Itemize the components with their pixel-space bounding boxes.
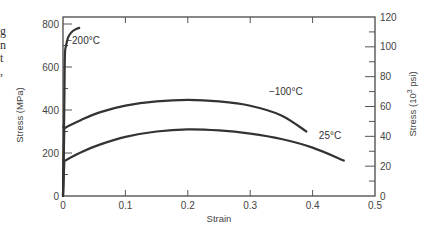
y2-axis-label: Stress (103 psi) bbox=[406, 71, 418, 136]
curve-25-c bbox=[63, 129, 344, 196]
y-tick-label: 200 bbox=[42, 148, 59, 159]
caption-fragments: g n t , bbox=[0, 24, 6, 78]
y2-axis-label-tail: psi) bbox=[407, 71, 418, 89]
caption-fragment: t bbox=[0, 51, 4, 65]
y-tick-label: 400 bbox=[42, 105, 59, 116]
stress-strain-chart: g n t , 00.10.20.30.40.50200400600800020… bbox=[0, 0, 428, 233]
curve-label-200-c: −200°C bbox=[66, 35, 100, 46]
x-tick-label: 0 bbox=[60, 200, 66, 211]
curves bbox=[63, 28, 344, 196]
x-tick-label: 0.5 bbox=[368, 200, 382, 211]
y2-tick-label: 20 bbox=[380, 161, 392, 172]
caption-fragment: , bbox=[0, 64, 3, 78]
x-tick-label: 0.2 bbox=[181, 200, 195, 211]
caption-fragment: n bbox=[0, 38, 6, 52]
y-tick-label: 600 bbox=[42, 62, 59, 73]
x-tick-label: 0.1 bbox=[118, 200, 132, 211]
y2-tick-label: 40 bbox=[380, 131, 392, 142]
x-tick-label: 0.3 bbox=[243, 200, 257, 211]
curve-label-100-c: −100°C bbox=[269, 86, 303, 97]
x-tick-label: 0.4 bbox=[306, 200, 320, 211]
y2-tick-label: 100 bbox=[380, 41, 397, 52]
y2-tick-label: 60 bbox=[380, 101, 392, 112]
plot-frame bbox=[63, 17, 375, 196]
y-axis-label: Stress (MPa) bbox=[14, 87, 25, 142]
curve-label-25-c: 25°C bbox=[319, 130, 341, 141]
caption-fragment: g bbox=[0, 24, 6, 38]
curve-100-c bbox=[63, 100, 306, 196]
y2-axis-label-main: Stress (10 bbox=[407, 93, 418, 136]
curve-200-c bbox=[63, 28, 79, 196]
axis-ticks bbox=[63, 17, 375, 196]
curve-labels: −200°C−100°C25°C bbox=[66, 35, 341, 141]
y-tick-label: 800 bbox=[42, 19, 59, 30]
y2-tick-label: 120 bbox=[380, 12, 397, 23]
y2-tick-label: 0 bbox=[380, 191, 386, 202]
x-axis-label: Strain bbox=[207, 213, 232, 224]
y2-tick-label: 80 bbox=[380, 71, 392, 82]
y-tick-label: 0 bbox=[53, 191, 59, 202]
